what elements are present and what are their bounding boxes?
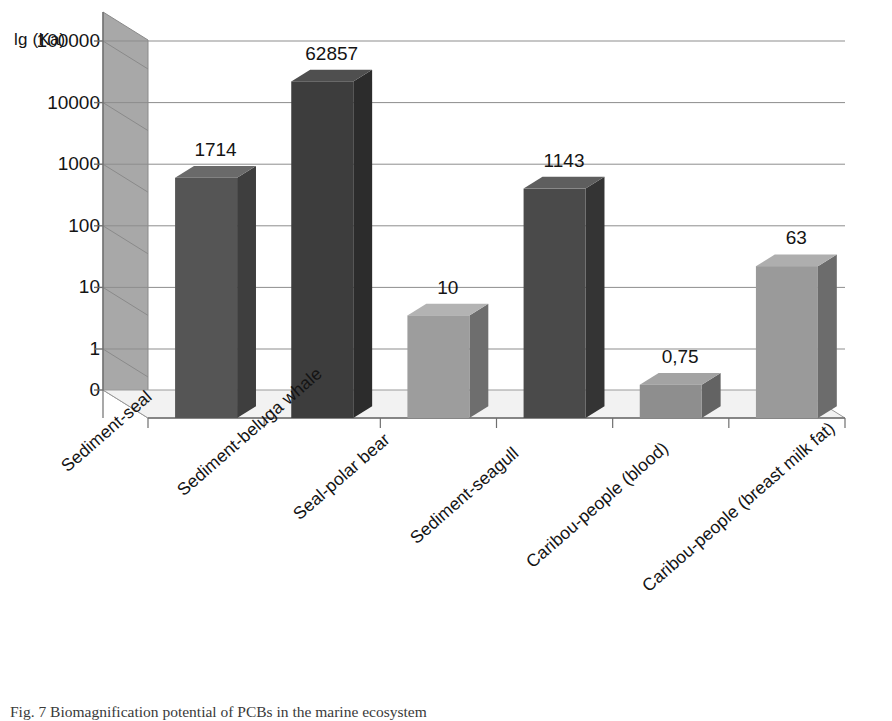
figure-caption: Fig. 7 Biomagnification potential of PCB… xyxy=(10,703,710,721)
x-axis-category-label: Sediment-beluga whale xyxy=(173,363,326,500)
x-axis-category-label: Sediment-seal xyxy=(57,386,156,476)
x-axis-category-label: Seal-polar bear xyxy=(289,429,394,524)
x-axis-category-label: Sediment-seagull xyxy=(406,443,523,549)
x-axis-category-label: Caribou-people (blood) xyxy=(522,438,673,573)
x-axis-category-label: Caribou-people (breast milk fat) xyxy=(638,418,839,597)
